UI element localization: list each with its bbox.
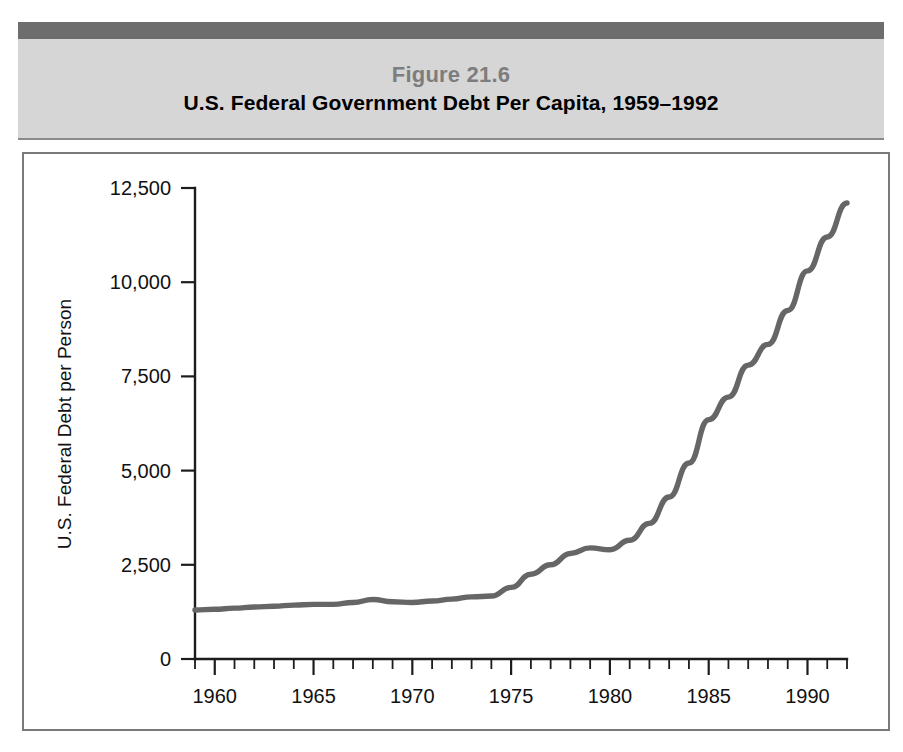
y-axis-tick-labels: 02,5005,0007,50010,00012,500 bbox=[110, 177, 171, 670]
y-axis-ticks bbox=[181, 188, 195, 659]
y-tick-label: 10,000 bbox=[110, 271, 171, 293]
y-tick-label: 5,000 bbox=[121, 460, 171, 482]
figure-number: Figure 21.6 bbox=[392, 62, 510, 87]
y-axis-title: U.S. Federal Debt per Person bbox=[54, 299, 75, 549]
x-tick-label: 1960 bbox=[193, 685, 238, 707]
y-tick-label: 2,500 bbox=[121, 554, 171, 576]
y-tick-label: 12,500 bbox=[110, 177, 171, 199]
debt-per-capita-line bbox=[195, 203, 847, 610]
x-tick-label: 1990 bbox=[785, 685, 830, 707]
line-chart: 02,5005,0007,50010,00012,500 19601965197… bbox=[24, 154, 888, 729]
x-tick-label: 1980 bbox=[588, 685, 633, 707]
x-tick-label: 1970 bbox=[390, 685, 435, 707]
chart-frame: 02,5005,0007,50010,00012,500 19601965197… bbox=[22, 152, 890, 731]
y-tick-label: 0 bbox=[160, 648, 171, 670]
header-top-bar bbox=[18, 22, 884, 39]
x-tick-label: 1965 bbox=[291, 685, 336, 707]
x-axis-ticks bbox=[195, 659, 847, 675]
x-tick-label: 1975 bbox=[489, 685, 534, 707]
header-title-band: Figure 21.6 U.S. Federal Government Debt… bbox=[18, 39, 884, 140]
x-tick-label: 1985 bbox=[686, 685, 731, 707]
figure-header: Figure 21.6 U.S. Federal Government Debt… bbox=[18, 22, 884, 140]
figure-title: U.S. Federal Government Debt Per Capita,… bbox=[184, 91, 719, 115]
y-tick-label: 7,500 bbox=[121, 365, 171, 387]
x-axis-tick-labels: 1960196519701975198019851990 bbox=[193, 685, 830, 707]
figure-page: Figure 21.6 U.S. Federal Government Debt… bbox=[0, 0, 903, 752]
